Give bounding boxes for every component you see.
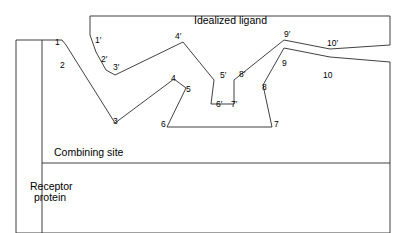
receptor-vertex-label-2: 2 <box>60 61 65 70</box>
ligand-vertex-label-2-prime: 2′ <box>101 55 107 64</box>
receptor-vertex-label-10: 10 <box>323 71 332 80</box>
receptor-protein-outline <box>16 40 390 233</box>
receptor-protein-label-line2: protein <box>34 191 66 203</box>
ligand-vertex-label-7-prime: 7′ <box>231 100 237 109</box>
receptor-vertex-label-4: 4 <box>171 74 176 83</box>
figure-title: Idealized ligand <box>194 14 267 26</box>
receptor-vertex-label-1: 1 <box>55 38 60 47</box>
combining-site-label: Combining site <box>54 146 123 158</box>
ligand-vertex-label-9-prime: 9′ <box>284 30 290 39</box>
diagram-canvas: Idealized ligand Combining site Receptor… <box>0 0 401 233</box>
ligand-vertex-label-4-prime: 4′ <box>175 32 181 41</box>
receptor-vertex-label-7: 7 <box>274 120 279 129</box>
receptor-vertex-label-6: 6 <box>161 120 166 129</box>
receptor-vertex-label-9: 9 <box>282 59 287 68</box>
idealized-ligand-outline <box>90 16 390 104</box>
ligand-vertex-label-8-prime: 8′ <box>239 70 245 79</box>
receptor-vertex-label-5: 5 <box>186 85 191 94</box>
ligand-vertex-label-5-prime: 5′ <box>220 71 226 80</box>
ligand-vertex-label-3-prime: 3′ <box>113 63 119 72</box>
ligand-vertex-label-6-prime: 6′ <box>216 100 222 109</box>
ligand-vertex-label-10-prime: 10′ <box>327 39 338 48</box>
receptor-vertex-label-3: 3 <box>113 117 118 126</box>
ligand-vertex-label-1-prime: 1′ <box>95 36 101 45</box>
receptor-vertex-label-8: 8 <box>262 83 267 92</box>
